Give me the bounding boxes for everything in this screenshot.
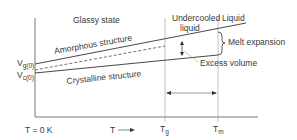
tm-sub: m [218, 128, 223, 135]
tg-sub: g [165, 128, 169, 135]
melt-expansion-label: Melt expansion [228, 38, 285, 47]
vc0-sub: c(0) [23, 74, 34, 81]
vc0-label: Vc(0) [17, 71, 34, 82]
arrow-head-up-icon [180, 41, 184, 45]
t-arrow-head-icon [130, 128, 135, 132]
excess-volume-leader [184, 51, 198, 62]
vg0-label: Vg(0) [17, 59, 34, 70]
arrow-head-down-icon [180, 52, 184, 56]
glassy-state-label: Glassy state [73, 16, 120, 25]
melt-expansion-brace [218, 32, 225, 55]
excess-volume-label: Excess volume [200, 59, 257, 68]
tm-label: Tm [213, 125, 224, 136]
t-axis-label: T [110, 126, 115, 135]
arrow-head-left-icon [166, 91, 171, 95]
tg-label: Tg [160, 125, 169, 136]
liquid-label: Liquid [222, 14, 245, 23]
volume-temperature-diagram [0, 0, 297, 140]
undercooled-label: Undercooled [172, 14, 220, 23]
vg0-sub: g(0) [23, 62, 35, 69]
arrow-head-right-icon [212, 91, 217, 95]
undercooled-liquid-label: liquid [180, 24, 200, 33]
origin-label: T = 0 K [25, 126, 52, 135]
